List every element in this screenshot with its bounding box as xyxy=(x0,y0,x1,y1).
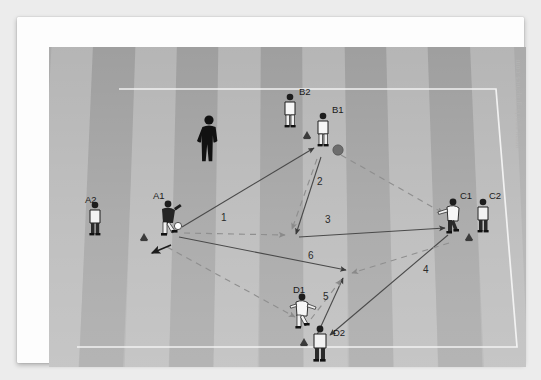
movement-label-4: 4 xyxy=(423,265,429,275)
player-label-C1: C1 xyxy=(460,191,472,201)
pitch: A2 A1 B2 B1 C1 C2 D1 D2 1 2 3 4 5 6 www.… xyxy=(49,47,526,367)
run-arrow-a1-to-a2 xyxy=(152,245,171,253)
watermark-text: www.sports-graphics.com xyxy=(514,59,521,148)
player-label-B1: B1 xyxy=(332,105,344,115)
run-lines xyxy=(167,155,449,319)
player-D2 xyxy=(313,326,326,362)
player-label-A2: A2 xyxy=(85,195,97,205)
player-label-D1: D1 xyxy=(293,285,305,295)
movement-label-1: 1 xyxy=(221,213,227,223)
movement-label-2: 2 xyxy=(317,177,323,187)
player-C2 xyxy=(478,199,489,233)
diagram-root: A2 A1 B2 B1 C1 C2 D1 D2 1 2 3 4 5 6 www.… xyxy=(0,0,541,380)
photo-frame: A2 A1 B2 B1 C1 C2 D1 D2 1 2 3 4 5 6 www.… xyxy=(17,17,524,363)
player-label-D2: D2 xyxy=(333,328,345,338)
player-A2 xyxy=(89,202,100,236)
player-B1 xyxy=(318,113,329,147)
field-graphics xyxy=(49,47,526,367)
movement-label-3: 3 xyxy=(325,215,331,225)
player-D1 xyxy=(290,294,316,329)
movement-label-6: 6 xyxy=(308,251,314,261)
player-B2 xyxy=(285,94,296,128)
coach-figure xyxy=(197,115,217,161)
player-A1 xyxy=(161,201,182,236)
player-label-A1: A1 xyxy=(153,191,165,201)
movement-label-5: 5 xyxy=(323,292,329,302)
player-label-C2: C2 xyxy=(489,191,501,201)
player-label-B2: B2 xyxy=(299,87,311,97)
